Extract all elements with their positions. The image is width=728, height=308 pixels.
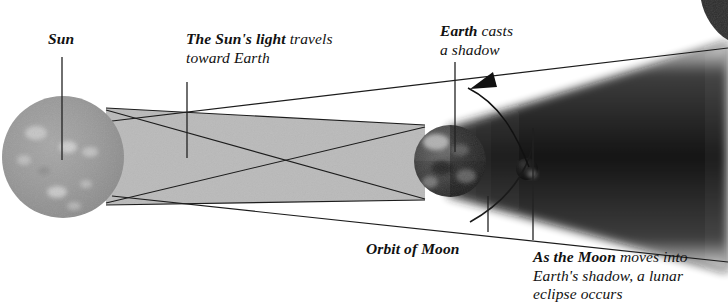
sun-body [2,96,124,218]
label-earth-casts-shadow: Earth castsa shadow [440,22,513,59]
label-sun-light-bold: The Sun's light [186,30,286,47]
label-sun-light-rest: travels [286,30,333,47]
diagram-canvas: Sun The Sun's light travelstoward Earth … [0,0,728,308]
label-orbit-of-moon: Orbit of Moon [366,240,459,259]
label-earth-casts-bold: Earth [440,22,478,39]
label-lunar-bold: As the Moon [533,248,616,265]
label-orbit-text: Orbit of Moon [366,240,459,257]
label-sun: Sun [48,30,74,49]
label-earth-casts-rest: casts [478,22,513,39]
label-lunar-rest: moves into [616,248,688,265]
label-lunar-line3: eclipse occurs [533,285,623,302]
label-earth-casts-line2: a shadow [440,41,500,58]
label-lunar-line2: Earth's shadow, a lunar [533,267,683,284]
label-sun-text: Sun [48,30,74,47]
label-sun-light: The Sun's light travelstoward Earth [186,30,333,67]
label-sun-light-line2: toward Earth [186,49,270,66]
label-lunar-eclipse: As the Moon moves intoEarth's shadow, a … [533,248,688,304]
